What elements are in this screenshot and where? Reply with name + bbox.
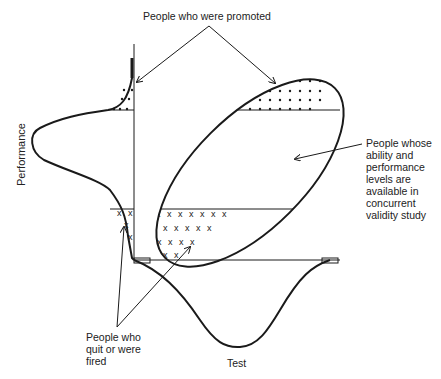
annotation-arrows bbox=[117, 26, 362, 327]
arrow-concurrent bbox=[295, 144, 362, 159]
svg-text:x: x bbox=[168, 237, 173, 247]
svg-text:x: x bbox=[200, 209, 205, 219]
svg-text:x: x bbox=[128, 208, 133, 218]
svg-text:x: x bbox=[189, 209, 194, 219]
label-concurrent-line: levels are bbox=[366, 173, 441, 185]
label-concurrent-line: concurrent bbox=[366, 197, 441, 209]
label-quit-fired: People who quit or were fired bbox=[86, 331, 141, 367]
label-concurrent-line: People whose bbox=[366, 137, 441, 149]
arrow-promoted-right bbox=[209, 26, 275, 83]
svg-text:x: x bbox=[174, 223, 179, 233]
label-quit-fired-line: quit or were bbox=[86, 343, 141, 355]
fired-x-left: xx x x bbox=[117, 208, 133, 242]
label-quit-fired-line: fired bbox=[86, 355, 141, 367]
label-quit-fired-line: People who bbox=[86, 331, 141, 343]
svg-text:x: x bbox=[222, 209, 227, 219]
arrow-fired-right bbox=[117, 247, 190, 327]
label-concurrent-line: validity study bbox=[366, 209, 441, 221]
performance-distribution-curve bbox=[32, 58, 134, 260]
label-concurrent-line: performance bbox=[366, 161, 441, 173]
svg-text:x: x bbox=[167, 209, 172, 219]
fired-x-marks: xxxxxxx xxxxxx xxxx xx bbox=[152, 209, 227, 260]
x-axis-label: Test bbox=[227, 357, 246, 369]
svg-text:x: x bbox=[211, 209, 216, 219]
test-distribution-curve bbox=[134, 260, 330, 347]
label-promoted: People who were promoted bbox=[143, 10, 271, 22]
svg-text:x: x bbox=[124, 220, 129, 230]
svg-text:x: x bbox=[190, 237, 195, 247]
svg-text:x: x bbox=[163, 223, 168, 233]
svg-text:x: x bbox=[117, 208, 122, 218]
label-concurrent: People whose ability and performance lev… bbox=[366, 137, 441, 221]
svg-text:x: x bbox=[174, 250, 179, 260]
svg-text:x: x bbox=[196, 223, 201, 233]
svg-text:x: x bbox=[178, 209, 183, 219]
y-axis-label: Performance bbox=[15, 123, 27, 186]
label-concurrent-line: ability and bbox=[366, 149, 441, 161]
svg-text:x: x bbox=[185, 223, 190, 233]
arrow-fired-left bbox=[117, 227, 124, 327]
svg-text:x: x bbox=[128, 232, 133, 242]
label-concurrent-line: available in bbox=[366, 185, 441, 197]
arrow-promoted-left bbox=[137, 26, 209, 82]
svg-text:x: x bbox=[179, 237, 184, 247]
svg-text:x: x bbox=[207, 223, 212, 233]
